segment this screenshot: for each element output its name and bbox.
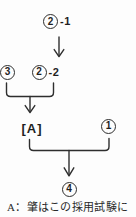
- node-3: 3: [0, 65, 15, 80]
- node-suffix: -2: [49, 67, 60, 78]
- node-suffix: -1: [60, 16, 71, 27]
- merge-bracket-upper: [7, 83, 54, 97]
- circled-number-3: 3: [0, 65, 15, 80]
- circled-number-4: 4: [62, 182, 77, 197]
- node-2-2: 2 -2: [32, 65, 60, 80]
- node-2-1: 2 -1: [43, 14, 71, 29]
- arrow-down-icon: [54, 37, 64, 57]
- arrow-down-icon: [64, 151, 74, 176]
- node-4: 4: [62, 182, 77, 197]
- node-1: 1: [101, 119, 116, 134]
- circled-number-2: 2: [43, 14, 58, 29]
- circled-number-1: 1: [101, 119, 116, 134]
- merge-bracket-lower: [30, 139, 110, 151]
- circled-number-2: 2: [32, 65, 47, 80]
- flow-diagram: 2 -1 3 2 -2 [A] 1 4 A：肇はこの採用試験に: [0, 0, 136, 217]
- result-a-label: [A]: [17, 121, 47, 136]
- arrow-down-icon: [25, 97, 35, 113]
- caption-text: A：肇はこの採用試験に: [7, 200, 135, 214]
